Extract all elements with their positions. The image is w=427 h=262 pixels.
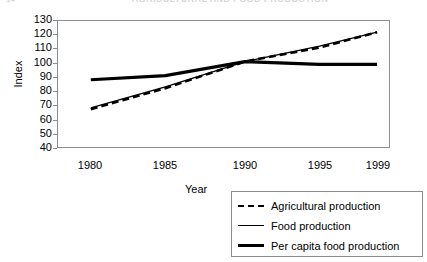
- y-axis-tick-label: 100: [34, 57, 52, 68]
- legend-swatch-thin-line-icon: [236, 220, 266, 232]
- y-axis-tick-label: 40: [40, 142, 52, 153]
- y-axis-tick-mark: [53, 148, 57, 149]
- x-axis-label: Year: [185, 183, 207, 195]
- x-axis-tick-label: 1985: [153, 160, 177, 171]
- chart-legend: Agricultural production Food production …: [231, 191, 423, 257]
- y-axis-tick-label: 130: [34, 14, 52, 25]
- chart-title: AGRICULTURAL AND FOOD PRODUCTION: [80, 0, 380, 4]
- legend-item-label: Per capita food production: [271, 240, 399, 252]
- chart-figure: 14 AGRICULTURAL AND FOOD PRODUCTION 1301…: [0, 0, 427, 262]
- plot-area: [57, 20, 390, 148]
- y-axis-tick-label: 120: [34, 28, 52, 39]
- y-axis-tick-label: 80: [40, 85, 52, 96]
- x-axis-tick-label: 1999: [366, 160, 390, 171]
- x-axis-tick-label: 1990: [233, 160, 257, 171]
- y-axis-tick-label: 90: [40, 71, 52, 82]
- y-axis-tick-label: 60: [40, 114, 52, 125]
- y-axis-tick-label: 110: [34, 42, 52, 53]
- legend-item-label: Food production: [271, 220, 351, 232]
- y-axis: 130120110100908070605040: [0, 0, 52, 160]
- legend-swatch-thick-line-icon: [236, 240, 266, 252]
- legend-item: Food production: [236, 216, 422, 236]
- x-axis-tick-label: 1995: [308, 160, 332, 171]
- y-axis-tick-label: 50: [40, 128, 52, 139]
- legend-item-label: Agricultural production: [271, 200, 380, 212]
- series-line-per-capita-food-production: [91, 62, 377, 80]
- legend-swatch-dashed-icon: [236, 200, 266, 212]
- legend-item: Per capita food production: [236, 236, 422, 256]
- x-axis-tick-label: 1980: [78, 160, 102, 171]
- y-axis-label: Index: [12, 44, 24, 104]
- plot-lines: [58, 21, 389, 147]
- y-axis-tick-label: 70: [40, 99, 52, 110]
- series-line-agricultural-production: [91, 32, 377, 109]
- legend-item: Agricultural production: [236, 196, 422, 216]
